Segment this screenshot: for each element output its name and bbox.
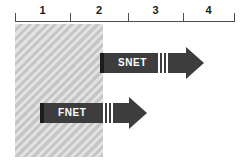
arrow-snet-gap-2: [166, 53, 168, 73]
arrow-snet-start-cap: [100, 53, 104, 73]
arrow-snet-gap-1: [162, 53, 164, 73]
axis-line: [15, 21, 234, 22]
axis-label-2: 2: [70, 4, 128, 16]
arrow-snet: SNET: [100, 53, 205, 73]
axis-label-3: 3: [128, 4, 183, 16]
arrow-fnet-head: [129, 97, 147, 129]
arrow-fnet-shaft: [40, 103, 131, 123]
arrow-snet-gap-0: [158, 53, 160, 73]
arrow-snet-head: [186, 47, 204, 79]
arrow-snet-shaft: [100, 53, 188, 73]
arrow-fnet: FNET: [40, 103, 148, 123]
axis-label-1: 1: [15, 4, 70, 16]
process-timeline-figure: 1 2 3 4 SNET FNET: [0, 0, 248, 167]
arrow-fnet-gap-2: [111, 103, 113, 123]
axis-tick-4: [234, 13, 235, 22]
hatched-phase-region: [15, 24, 103, 157]
axis-label-4: 4: [183, 4, 234, 16]
arrow-fnet-start-cap: [40, 103, 44, 123]
arrow-fnet-gap-0: [103, 103, 105, 123]
arrow-fnet-gap-1: [107, 103, 109, 123]
